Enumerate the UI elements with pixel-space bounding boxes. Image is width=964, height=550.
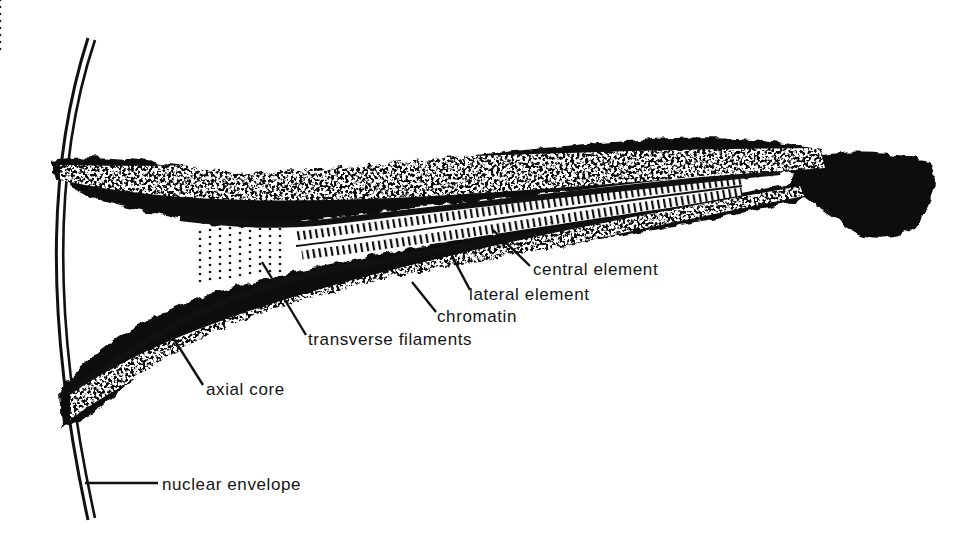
splayed-filament-dots — [0, 0, 281, 282]
nuclear-envelope-drawing — [56, 38, 95, 520]
label-nuclear-envelope: nuclear envelope — [162, 476, 301, 493]
label-lateral-element: lateral element — [469, 286, 590, 303]
label-axial-core: axial core — [206, 381, 285, 398]
label-transverse-filaments: transverse filaments — [308, 331, 472, 348]
leader-chromatin — [412, 282, 436, 312]
label-chromatin: chromatin — [437, 308, 517, 325]
label-central-element: central element — [533, 261, 658, 278]
diagram-drawing — [0, 0, 964, 550]
chromatin-texture — [60, 148, 825, 420]
synaptonemal-complex-figure: central element lateral element chromati… — [0, 0, 964, 550]
